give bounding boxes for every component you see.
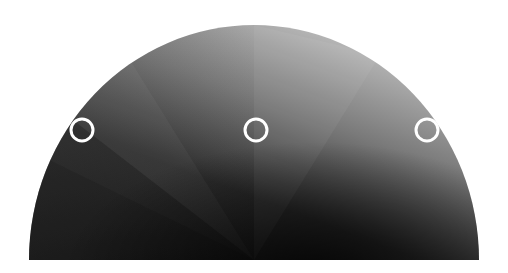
dome-body [0,0,508,273]
dome-svg [0,0,508,273]
dome-diagram [0,0,508,273]
